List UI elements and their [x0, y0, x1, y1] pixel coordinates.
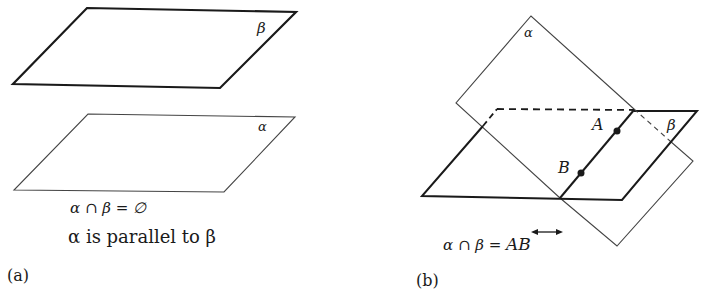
equation-a: α ∩ β = ∅: [70, 201, 146, 216]
point-a-label: A: [592, 117, 604, 133]
panel-label-b: (b): [416, 273, 439, 289]
hidden-edge-top: [483, 109, 497, 126]
beta-label-a: β: [257, 21, 266, 36]
arrow-left-head: [531, 229, 538, 235]
figure: β α α ∩ β = ∅ α is parallel to β (a) α β…: [0, 0, 702, 308]
equation-b-right: AB: [506, 234, 531, 254]
equation-b: α ∩ β = AB: [443, 236, 531, 253]
caption-a: α is parallel to β: [68, 228, 216, 246]
arrow-right-head: [556, 229, 563, 235]
beta-label-b: β: [667, 118, 676, 133]
equation-b-left: α ∩ β =: [443, 236, 506, 254]
planes-drawing: [0, 0, 702, 308]
plane-alpha-b: [456, 16, 693, 246]
alpha-label-b: α: [524, 26, 533, 39]
alpha-label-a: α: [258, 120, 267, 133]
panel-label-a: (a): [7, 268, 29, 284]
plane-alpha-a: [14, 114, 295, 192]
point-b-label: B: [558, 160, 570, 176]
hidden-edge-alpha: [634, 109, 670, 141]
point-b: [578, 170, 585, 177]
plane-beta-a: [13, 8, 296, 88]
point-a: [614, 128, 621, 135]
plane-beta-b: [422, 111, 697, 200]
hidden-edge-top2: [497, 109, 634, 110]
